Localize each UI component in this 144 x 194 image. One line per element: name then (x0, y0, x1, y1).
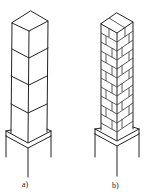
column-b-top-joint (109, 18, 125, 28)
column-a-base-top-left-link (6, 130, 11, 131)
column-a-base-top-right-link (47, 129, 51, 131)
figure-canvas (0, 0, 144, 194)
panel-b-label: b) (112, 181, 119, 190)
column-a (6, 11, 51, 177)
column-b-base-top-left-link (95, 128, 101, 129)
column-a-left-edge (11, 23, 12, 133)
column-b-base-top-right-link (133, 127, 139, 129)
column-a-right-edge (47, 21, 48, 132)
column-a-divider-1 (12, 48, 48, 58)
panel-a-label: a) (22, 180, 28, 189)
column-a-front-edge (28, 31, 29, 142)
column-a-divider-3 (11, 104, 47, 113)
column-b (95, 13, 139, 176)
column-a-top-face (12, 11, 48, 31)
